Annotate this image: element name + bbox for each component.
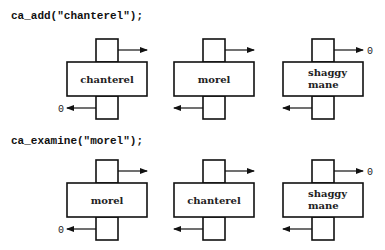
node-label: chanterel — [80, 74, 134, 85]
list-node: chanterel — [174, 160, 254, 240]
next-pointer-cell — [203, 39, 225, 62]
node-label: chanterel — [187, 195, 241, 206]
next-pointer-cell — [312, 39, 334, 62]
node-label: shaggy — [308, 188, 348, 199]
prev-pointer-cell — [96, 96, 118, 119]
next-pointer-cell — [203, 160, 225, 183]
node-label: shaggy — [308, 67, 348, 78]
null-marker: 0 — [58, 104, 64, 115]
list-node: chanterel0 — [58, 39, 147, 119]
next-pointer-cell — [96, 160, 118, 183]
list-node: shaggymane0 — [283, 160, 373, 240]
next-pointer-cell — [312, 160, 334, 183]
node-label: morel — [198, 74, 231, 85]
prev-pointer-cell — [312, 217, 334, 240]
prev-pointer-cell — [203, 96, 225, 119]
node-label: morel — [91, 195, 124, 206]
node-label: mane — [308, 79, 339, 90]
prev-pointer-cell — [96, 217, 118, 240]
prev-pointer-cell — [203, 217, 225, 240]
list-node: morel0 — [58, 160, 147, 240]
next-pointer-cell — [96, 39, 118, 62]
null-marker: 0 — [367, 167, 373, 178]
linked-list-diagram: chanterel0morelshaggymane0morel0chantere… — [0, 0, 385, 250]
node-label: mane — [308, 200, 339, 211]
list-node: shaggymane0 — [283, 39, 373, 119]
null-marker: 0 — [367, 46, 373, 57]
prev-pointer-cell — [312, 96, 334, 119]
null-marker: 0 — [58, 225, 64, 236]
list-node: morel — [174, 39, 254, 119]
